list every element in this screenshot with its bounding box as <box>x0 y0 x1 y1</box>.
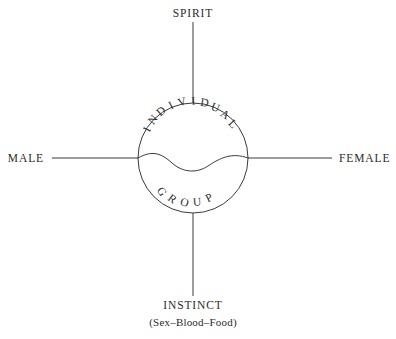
arc-text-individual: I N D I V I D U A L <box>141 94 240 133</box>
label-instinct: INSTINCT <box>163 299 223 311</box>
wave-divider <box>138 153 248 171</box>
arc-letter: I <box>191 94 196 106</box>
label-male: MALE <box>8 152 44 164</box>
label-instinct-sub: (Sex–Blood–Food) <box>149 316 237 329</box>
arc-text-group: G R O U P <box>155 185 214 210</box>
label-spirit: SPIRIT <box>173 7 214 19</box>
arc-letter: A <box>219 107 233 122</box>
arc-letter: D <box>154 104 168 119</box>
label-female: FEMALE <box>339 152 390 164</box>
arc-letter: L <box>226 117 240 130</box>
arc-letter: O <box>179 195 190 209</box>
arc-letter: P <box>203 191 214 205</box>
arc-letter: R <box>166 191 180 205</box>
arc-letter: U <box>210 100 223 114</box>
arc-letter: G <box>155 185 170 198</box>
arc-letter: I <box>141 125 154 134</box>
arc-letter: V <box>176 94 188 108</box>
diagram-root: I N D I V I D U A L G R O U P SPIRIT INS… <box>0 0 396 339</box>
diagram-canvas: I N D I V I D U A L G R O U P SPIRIT INS… <box>0 0 396 339</box>
arc-letter: D <box>200 96 210 109</box>
arc-letter: U <box>192 195 202 208</box>
